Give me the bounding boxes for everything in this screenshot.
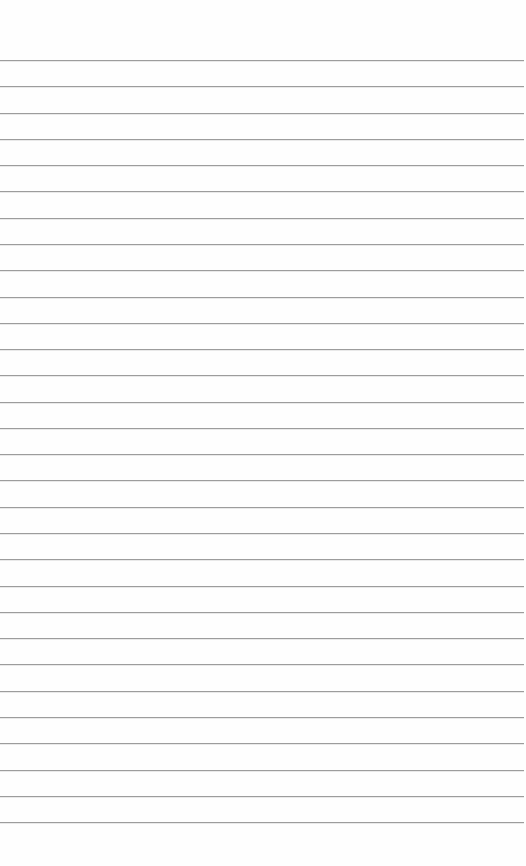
- ruled-line: [0, 297, 524, 298]
- lined-paper-sheet: [0, 0, 526, 866]
- ruled-line: [0, 270, 524, 271]
- ruled-line: [0, 375, 524, 376]
- ruled-line: [0, 533, 524, 534]
- ruled-line: [0, 822, 524, 823]
- ruled-line: [0, 717, 524, 718]
- ruled-line: [0, 349, 524, 350]
- ruled-line: [0, 218, 524, 219]
- ruled-line: [0, 691, 524, 692]
- ruled-line: [0, 743, 524, 744]
- ruled-line: [0, 480, 524, 481]
- ruled-line: [0, 454, 524, 455]
- ruled-line: [0, 60, 524, 61]
- ruled-line: [0, 770, 524, 771]
- ruled-line: [0, 139, 524, 140]
- ruled-line: [0, 402, 524, 403]
- ruled-line: [0, 638, 524, 639]
- ruled-line: [0, 559, 524, 560]
- ruled-line: [0, 113, 524, 114]
- ruled-line: [0, 664, 524, 665]
- ruled-line: [0, 244, 524, 245]
- ruled-line: [0, 586, 524, 587]
- ruled-line: [0, 86, 524, 87]
- ruled-line: [0, 191, 524, 192]
- ruled-line: [0, 428, 524, 429]
- ruled-line: [0, 323, 524, 324]
- ruled-line: [0, 165, 524, 166]
- ruled-line: [0, 612, 524, 613]
- ruled-line: [0, 507, 524, 508]
- ruled-line: [0, 796, 524, 797]
